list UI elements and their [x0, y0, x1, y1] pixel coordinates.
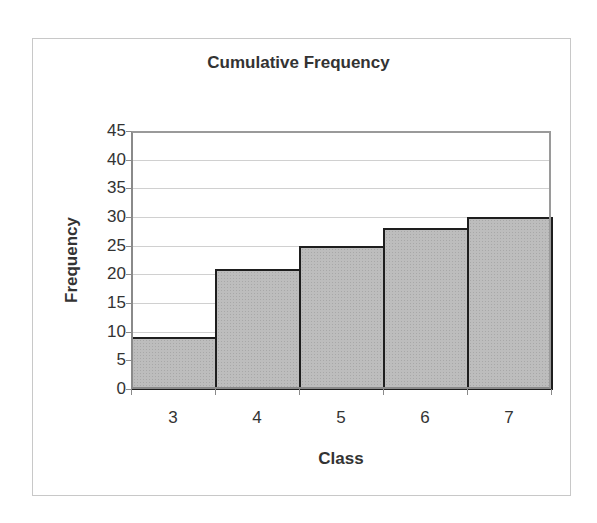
y-tick-mark — [126, 131, 131, 132]
y-tick-label: 20 — [86, 265, 126, 282]
x-tick-mark — [215, 389, 216, 395]
x-tick-label: 4 — [215, 408, 299, 428]
y-tick-label: 15 — [86, 294, 126, 311]
y-tick-label: 30 — [86, 208, 126, 225]
y-tick-mark — [126, 274, 131, 275]
y-tick-label: 10 — [86, 323, 126, 340]
x-tick-label: 5 — [299, 408, 383, 428]
plot-area — [131, 131, 551, 389]
y-tick-label: 45 — [86, 122, 126, 139]
y-tick-label: 0 — [86, 380, 126, 397]
y-tick-mark — [126, 188, 131, 189]
x-tick-mark — [383, 389, 384, 395]
x-tick-label: 6 — [383, 408, 467, 428]
x-tick-label: 7 — [467, 408, 551, 428]
y-tick-mark — [126, 303, 131, 304]
y-tick-label: 35 — [86, 179, 126, 196]
y-tick-label: 40 — [86, 151, 126, 168]
y-tick-mark — [126, 360, 131, 361]
x-tick-mark — [551, 389, 552, 395]
x-tick-mark — [131, 389, 132, 395]
x-axis-label: Class — [131, 449, 551, 469]
y-tick-mark — [126, 217, 131, 218]
y-axis-label: Frequency — [62, 217, 82, 303]
y-tick-label: 25 — [86, 237, 126, 254]
chart-title: Cumulative Frequency — [0, 53, 597, 73]
x-tick-label: 3 — [131, 408, 215, 428]
x-tick-mark — [467, 389, 468, 395]
y-tick-mark — [126, 332, 131, 333]
x-tick-mark — [299, 389, 300, 395]
y-tick-mark — [126, 160, 131, 161]
y-tick-mark — [126, 246, 131, 247]
y-tick-label: 5 — [86, 351, 126, 368]
